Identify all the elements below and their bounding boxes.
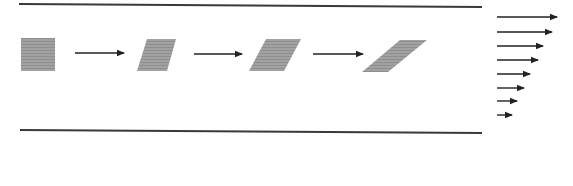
diagram-canvas: [0, 0, 573, 186]
fluid-element-stage-2: [137, 39, 176, 71]
fluid-elements-group: [21, 38, 427, 72]
bottom-plate: [20, 130, 482, 133]
top-plate: [19, 4, 482, 7]
transition-arrows-group: [75, 53, 363, 54]
shear-flow-diagram: Simple shear flow between parallel plate…: [0, 0, 573, 186]
fluid-element-stage-1: [21, 38, 55, 71]
fluid-element-stage-3: [249, 39, 301, 71]
velocity-profile-group: [497, 17, 557, 115]
fluid-element-stage-4: [362, 40, 427, 72]
